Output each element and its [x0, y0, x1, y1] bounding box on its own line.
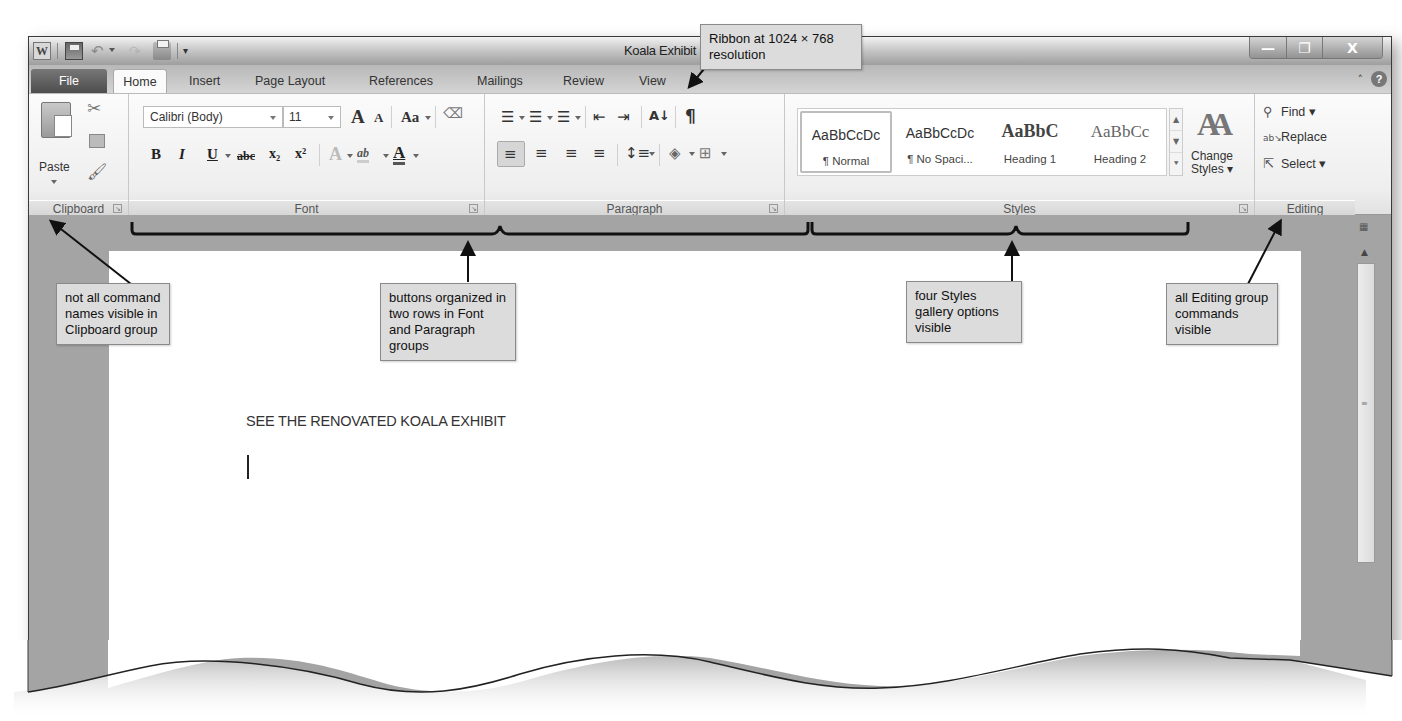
font-name-combobox[interactable]: Calibri (Body): [143, 106, 283, 128]
replace-label: Replace: [1281, 130, 1327, 144]
shading-dropdown-icon[interactable]: [689, 152, 695, 156]
line-spacing-icon[interactable]: ↕≡: [625, 144, 650, 162]
clipboard-group-label: Clipboard ↘: [29, 200, 128, 216]
bullets-icon[interactable]: ☰: [501, 108, 514, 126]
decrease-indent-icon[interactable]: ⇤: [593, 108, 606, 126]
document-heading-text[interactable]: SEE THE RENOVATED KOALA EXHIBIT: [246, 413, 506, 429]
font-dialog-launcher-icon[interactable]: ↘: [469, 204, 478, 213]
font-color-dropdown-icon[interactable]: [413, 154, 419, 158]
change-styles-icon[interactable]: AA: [1197, 106, 1223, 143]
paste-button-label[interactable]: Paste: [39, 160, 70, 174]
chevron-down-icon[interactable]: [328, 116, 334, 120]
numbering-icon[interactable]: ☰: [529, 108, 542, 126]
scroll-up-arrow-icon[interactable]: ▲: [1361, 247, 1368, 257]
multilevel-list-icon[interactable]: ☰: [557, 108, 570, 126]
tab-view[interactable]: View: [637, 69, 668, 93]
save-icon[interactable]: [65, 42, 83, 60]
find-label: Find ▾: [1281, 105, 1316, 119]
undo-dropdown-arrow-icon[interactable]: [109, 48, 115, 52]
highlight-dropdown-icon[interactable]: [383, 154, 389, 158]
scroll-thumb[interactable]: ≡: [1357, 263, 1375, 563]
bold-button[interactable]: B: [151, 146, 161, 163]
editing-label-text: Editing: [1287, 202, 1324, 216]
tab-mailings[interactable]: Mailings: [475, 69, 525, 93]
show-formatting-marks-icon[interactable]: ¶: [685, 106, 696, 126]
view-ruler-icon[interactable]: ▦: [1359, 221, 1371, 235]
cut-icon[interactable]: ✂: [87, 100, 101, 117]
strikethrough-button[interactable]: abc: [237, 149, 255, 164]
multilevel-dropdown-icon[interactable]: [575, 116, 581, 120]
clipboard-dialog-launcher-icon[interactable]: ↘: [113, 204, 122, 213]
paragraph-dialog-launcher-icon[interactable]: ↘: [769, 204, 778, 213]
italic-button[interactable]: I: [179, 146, 185, 163]
clear-formatting-icon[interactable]: ⌫: [443, 106, 463, 120]
quick-print-icon[interactable]: [153, 42, 171, 60]
style-sample: AaBbCc: [1074, 122, 1166, 147]
style-normal[interactable]: AaBbCcDc ¶ Normal: [800, 111, 892, 173]
tab-page-layout[interactable]: Page Layout: [253, 69, 327, 93]
align-right-icon[interactable]: ≡: [565, 144, 578, 162]
sort-icon[interactable]: A↓: [649, 108, 670, 123]
borders-dropdown-icon[interactable]: [721, 152, 727, 156]
format-painter-icon[interactable]: 🖌: [87, 164, 107, 180]
word-app-icon[interactable]: W: [33, 42, 51, 60]
highlight-button[interactable]: ab: [357, 146, 369, 163]
paste-dropdown-arrow-icon[interactable]: [51, 180, 57, 184]
tab-home[interactable]: Home: [113, 69, 167, 94]
gallery-more-icon[interactable]: ⯆: [1170, 153, 1182, 175]
numbering-dropdown-icon[interactable]: [547, 116, 553, 120]
redo-icon[interactable]: ↷: [129, 42, 147, 60]
font-size-combobox[interactable]: 11: [283, 106, 341, 128]
style-no-spacing[interactable]: AaBbCcDc ¶ No Spaci...: [894, 111, 986, 173]
undo-icon[interactable]: ↶: [91, 42, 109, 60]
copy-icon[interactable]: [89, 134, 105, 148]
minimize-button[interactable]: —: [1250, 37, 1286, 59]
tab-insert[interactable]: Insert: [187, 69, 222, 93]
window-title: Koala Exhibit: [624, 43, 696, 58]
change-case-icon[interactable]: Aa: [401, 109, 419, 126]
minimize-ribbon-icon[interactable]: ˄: [1358, 73, 1364, 86]
change-styles-button[interactable]: Change Styles ▾: [1191, 150, 1233, 176]
change-case-dropdown-icon[interactable]: [425, 116, 431, 120]
underline-button[interactable]: U: [207, 146, 218, 163]
superscript-button[interactable]: x²: [295, 146, 306, 162]
align-left-button[interactable]: ≡: [497, 141, 525, 167]
subscript-button[interactable]: x₂: [269, 146, 280, 162]
shrink-font-icon[interactable]: A: [374, 110, 383, 126]
font-group-label: Font ↘: [129, 200, 484, 216]
text-effects-button[interactable]: A: [329, 144, 342, 165]
line-spacing-dropdown-icon[interactable]: [649, 152, 655, 156]
shading-icon[interactable]: ◈: [669, 144, 681, 162]
center-icon[interactable]: ≡: [535, 144, 548, 162]
tab-review[interactable]: Review: [561, 69, 606, 93]
replace-button[interactable]: ab↘Replace: [1263, 130, 1327, 144]
find-button[interactable]: ⚲Find ▾: [1263, 104, 1316, 119]
close-button[interactable]: X: [1322, 37, 1382, 59]
underline-dropdown-icon[interactable]: [225, 154, 231, 158]
justify-icon[interactable]: ≡: [593, 144, 606, 162]
customize-qat-icon[interactable]: ▾: [183, 45, 188, 56]
tab-references[interactable]: References: [367, 69, 435, 93]
gallery-scroll-down-icon[interactable]: ▼: [1170, 131, 1182, 153]
restore-button[interactable]: ❐: [1286, 37, 1322, 59]
select-button[interactable]: ⇱Select ▾: [1263, 156, 1326, 171]
document-page[interactable]: SEE THE RENOVATED KOALA EXHIBIT I≡: [109, 251, 1301, 676]
chevron-down-icon[interactable]: [270, 116, 276, 120]
style-heading-2[interactable]: AaBbCc Heading 2: [1074, 111, 1166, 173]
borders-icon[interactable]: ⊞: [699, 144, 712, 162]
font-label-text: Font: [294, 202, 318, 216]
scroll-grip-icon: ≡: [1361, 402, 1371, 405]
clipboard-group: Paste ✂ 🖌 Clipboard ↘: [29, 94, 129, 216]
styles-dialog-launcher-icon[interactable]: ↘: [1239, 204, 1248, 213]
style-heading-1[interactable]: AaBbC Heading 1: [984, 111, 1076, 173]
tab-file[interactable]: File: [31, 69, 107, 93]
text-effects-dropdown-icon[interactable]: [347, 154, 353, 158]
grow-font-icon[interactable]: A: [351, 106, 365, 128]
help-icon[interactable]: ?: [1371, 71, 1387, 87]
font-color-button[interactable]: A: [393, 144, 405, 165]
styles-group-label: Styles ↘: [785, 200, 1254, 216]
increase-indent-icon[interactable]: ⇥: [617, 108, 630, 126]
bullets-dropdown-icon[interactable]: [519, 116, 525, 120]
paste-icon[interactable]: [41, 102, 71, 138]
gallery-scroll-up-icon[interactable]: ▲: [1170, 109, 1182, 131]
